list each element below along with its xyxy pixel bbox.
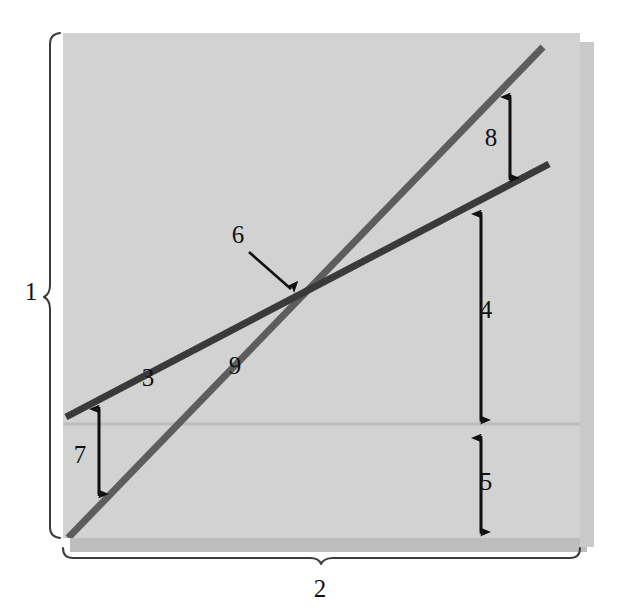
callout-label-6: 6 <box>232 221 245 248</box>
vertical-axis-brace <box>44 33 60 538</box>
axis-label-2: 2 <box>314 575 327 602</box>
panel-shadow-right <box>580 42 594 547</box>
line-label-3: 3 <box>142 364 155 391</box>
figure-root: 1 2 3 9 6 8 4 5 7 <box>0 0 628 613</box>
dimension-label-4: 4 <box>480 296 493 323</box>
dimension-label-5: 5 <box>480 468 493 495</box>
dimension-label-7: 7 <box>74 441 87 468</box>
line-label-9: 9 <box>229 352 242 379</box>
diagram-canvas: 1 2 3 9 6 8 4 5 7 <box>0 0 628 613</box>
dimension-label-8: 8 <box>485 124 498 151</box>
panel-shadow-bottom <box>70 538 587 552</box>
axis-label-1: 1 <box>25 278 38 305</box>
